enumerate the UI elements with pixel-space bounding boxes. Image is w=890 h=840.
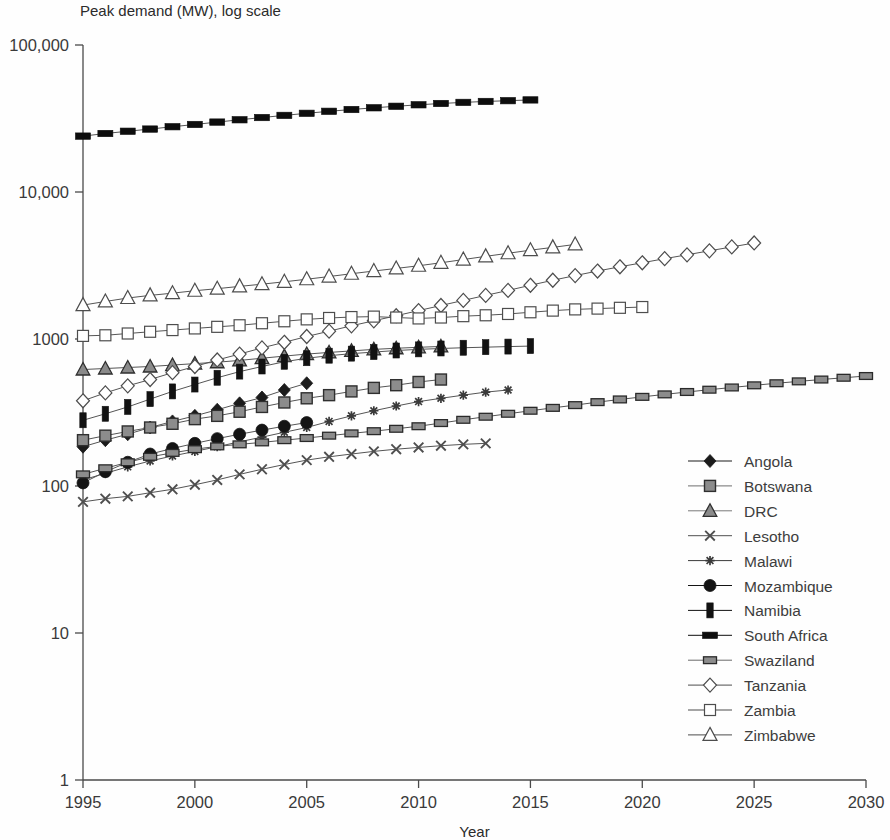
legend-item-zimbabwe[interactable]: Zimbabwe <box>688 727 816 744</box>
data-point-marker <box>326 348 332 363</box>
legend-label: DRC <box>744 503 778 520</box>
data-point-marker <box>346 386 357 397</box>
data-point-marker <box>210 119 225 125</box>
data-point-marker <box>434 299 447 313</box>
data-point-marker <box>143 288 157 301</box>
legend-marker-icon <box>704 455 716 468</box>
data-point-marker <box>300 435 313 442</box>
data-point-marker <box>255 341 268 355</box>
data-point-marker <box>725 240 738 254</box>
legend-item-zambia[interactable]: Zambia <box>688 702 796 719</box>
legend-label: Zimbabwe <box>744 727 816 744</box>
legend-label: Tanzania <box>744 677 806 694</box>
data-point-marker <box>167 418 178 429</box>
data-point-marker <box>304 351 310 366</box>
data-point-marker <box>77 477 89 489</box>
legend-item-swaziland[interactable]: Swaziland <box>688 652 815 669</box>
data-point-marker <box>100 430 111 441</box>
data-point-marker <box>100 330 111 341</box>
legend-item-mozambique[interactable]: Mozambique <box>688 578 833 595</box>
data-point-marker <box>525 307 536 318</box>
data-point-marker <box>212 475 222 485</box>
x-axis-label: Year <box>459 823 489 840</box>
legend-item-south-africa[interactable]: South Africa <box>688 627 828 644</box>
data-point-marker <box>390 425 403 432</box>
data-point-marker <box>480 310 491 321</box>
legend-item-malawi[interactable]: Malawi <box>688 553 792 570</box>
data-point-marker <box>613 260 626 274</box>
data-point-marker <box>770 380 783 387</box>
data-point-marker <box>211 443 224 450</box>
data-point-marker <box>371 345 377 360</box>
chart-page: Peak demand (MW), log scale100,00010,000… <box>0 0 890 840</box>
data-point-marker <box>165 124 180 130</box>
y-tick-label: 10,000 <box>19 183 69 201</box>
legend-label: Namibia <box>744 602 801 619</box>
data-point-marker <box>169 384 175 399</box>
legend-item-angola[interactable]: Angola <box>688 453 793 470</box>
data-point-marker <box>568 237 582 250</box>
data-point-marker <box>280 460 290 470</box>
data-point-marker <box>435 312 446 323</box>
data-point-marker <box>121 379 134 393</box>
data-point-marker <box>479 413 492 420</box>
data-point-marker <box>392 401 401 410</box>
data-point-marker <box>278 335 291 349</box>
data-point-marker <box>438 341 444 356</box>
legend-item-drc[interactable]: DRC <box>688 503 778 520</box>
data-point-marker <box>278 437 291 444</box>
data-point-marker <box>592 303 603 314</box>
data-point-marker <box>234 428 246 440</box>
data-point-marker <box>301 417 313 429</box>
data-point-marker <box>389 103 404 109</box>
legend-item-tanzania[interactable]: Tanzania <box>688 677 806 694</box>
data-point-marker <box>324 417 333 426</box>
data-point-marker <box>367 428 380 435</box>
data-point-marker <box>281 354 287 369</box>
data-point-marker <box>255 439 268 446</box>
x-tick-label: 2010 <box>400 793 437 811</box>
data-point-marker <box>120 128 135 134</box>
data-point-marker <box>99 386 112 400</box>
data-point-marker <box>636 256 649 270</box>
data-point-marker <box>256 401 267 412</box>
data-point-marker <box>748 236 761 250</box>
data-point-marker <box>479 288 492 302</box>
legend-marker-icon <box>704 678 717 692</box>
x-tick-label: 2005 <box>288 793 325 811</box>
data-point-marker <box>591 264 604 278</box>
data-point-marker <box>415 342 421 357</box>
data-point-marker <box>187 121 202 127</box>
legend-marker-icon <box>705 480 716 491</box>
data-point-marker <box>324 390 335 401</box>
data-point-marker <box>278 383 290 396</box>
legend-item-botswana[interactable]: Botswana <box>688 478 812 495</box>
legend-label: Swaziland <box>744 652 815 669</box>
data-point-marker <box>391 380 402 391</box>
data-point-marker <box>188 283 202 296</box>
data-point-marker <box>458 311 469 322</box>
legend-item-lesotho[interactable]: Lesotho <box>688 528 799 545</box>
x-tick-label: 2020 <box>624 793 661 811</box>
legend-item-namibia[interactable]: Namibia <box>688 602 801 619</box>
data-point-marker <box>77 394 90 408</box>
data-point-marker <box>501 97 516 103</box>
data-point-marker <box>167 325 178 336</box>
data-point-marker <box>76 133 91 139</box>
data-point-marker <box>257 464 267 474</box>
data-point-marker <box>233 347 246 361</box>
data-point-marker <box>478 98 493 104</box>
data-point-marker <box>636 393 649 400</box>
data-point-marker <box>78 330 89 341</box>
series-zimbabwe <box>76 237 582 311</box>
data-point-marker <box>232 117 247 123</box>
data-point-marker <box>188 360 201 374</box>
legend-label: Botswana <box>744 478 812 495</box>
y-tick-label: 1 <box>60 771 69 789</box>
data-point-marker <box>725 384 738 391</box>
data-point-marker <box>481 388 490 397</box>
data-point-marker <box>482 340 488 355</box>
series-lesotho <box>78 439 490 507</box>
data-point-marker <box>166 449 179 456</box>
series-line <box>83 443 486 502</box>
